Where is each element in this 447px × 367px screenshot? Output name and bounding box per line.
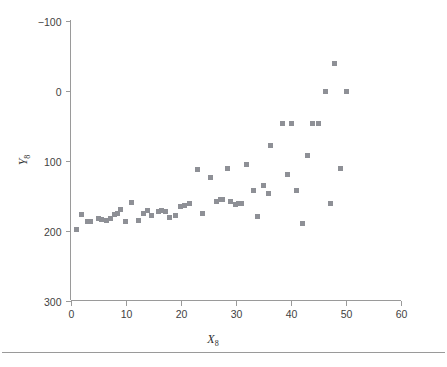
x-axis-tick-label: 20 [176,308,188,320]
scatter-point [244,162,249,167]
scatter-point [220,197,225,202]
scatter-point [163,209,168,214]
scatter-point [316,121,321,126]
scatter-point [200,211,205,216]
scatter-point [74,227,79,232]
x-axis-title-subscript: 8 [215,339,219,348]
x-axis-tick-label: 10 [121,308,133,320]
scatter-point [195,167,200,172]
y-axis-title-subscript: 8 [23,155,32,159]
x-axis-tick-label: 0 [69,308,75,320]
scatter-point [178,204,183,209]
scatter-point [332,61,337,66]
scatter-point [79,212,84,217]
plot-canvas: 3002001000−100 0102030405060 X8 Y8 [0,0,447,367]
scatter-point [310,121,315,126]
scatter-point [208,175,213,180]
scatter-point [108,216,113,221]
scatter-point [225,166,230,171]
scatter-point [266,191,271,196]
scatter-point [88,219,93,224]
scatter-point [280,121,285,126]
x-axis-tick-label: 30 [231,308,243,320]
scatter-point [149,213,154,218]
scatter-point [187,201,192,206]
y-axis-tick-label: 300 [44,296,62,308]
scatter-point [344,89,349,94]
scatter-point [239,201,244,206]
scatter-point [173,213,178,218]
x-axis-tick-label: 50 [341,308,353,320]
y-axis-tick-label: 100 [44,156,62,168]
scatter-point [182,203,187,208]
scatter-point [323,89,328,94]
scatter-point [289,121,294,126]
scatter-point [328,201,333,206]
scatter-point [228,199,233,204]
scatter-point [268,143,273,148]
y-axis-tick-label: −100 [38,16,62,28]
scatter-point [300,221,305,226]
scatter-point [99,217,104,222]
scatter-point [251,188,256,193]
scatter-point [305,153,310,158]
scatter-point [123,219,128,224]
scatter-plot-figure: 3002001000−100 0102030405060 X8 Y8 [0,0,447,367]
scatter-point [136,218,141,223]
scatter-point [338,166,343,171]
scatter-point [145,208,150,213]
x-axis-tick-label: 60 [396,308,408,320]
figure-background [0,0,447,367]
scatter-point [167,215,172,220]
scatter-point [118,207,123,212]
scatter-point [255,214,260,219]
x-axis-tick-label: 40 [286,308,298,320]
scatter-point [261,183,266,188]
y-axis-tick-label: 0 [56,86,62,98]
y-axis-tick-label: 200 [44,226,62,238]
scatter-point [129,200,134,205]
scatter-point [285,172,290,177]
scatter-point [294,188,299,193]
